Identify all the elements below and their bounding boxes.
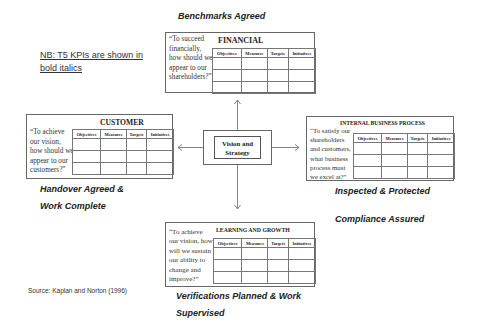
quote-line: we excel at?” [310, 172, 351, 181]
table-row [214, 272, 316, 284]
source-citation: Source: Kaplan and Norton (1996) [28, 287, 127, 294]
col-targets: Targets [407, 134, 427, 143]
quote-line: will we sustain [169, 247, 213, 256]
quote-line: shareholders [310, 135, 351, 144]
internal-process-perspective-box: INTERNAL BUSINESS PROCESS “To satisfy ou… [306, 116, 454, 181]
col-initiatives: Initiatives [288, 239, 315, 248]
col-measures: Measures [242, 239, 268, 248]
learning-growth-scorecard-table: Objectives Measures Targets Initiatives [213, 238, 316, 284]
quote-line: our vision, how [169, 237, 213, 246]
table-header-row: Objectives Measures Targets Initiatives [73, 130, 174, 139]
kpi-label: Supervised [176, 305, 301, 322]
kpi-label: Inspected & Protected [335, 183, 430, 200]
col-initiatives: Initiatives [147, 130, 174, 139]
learning-growth-perspective-box: “To achieve our vision, how will we sust… [165, 222, 315, 287]
quote-line: process must [310, 163, 351, 172]
col-measures: Measures [241, 49, 267, 58]
customer-kpi: Handover Agreed & Work Complete [40, 181, 124, 215]
table-row [213, 82, 316, 94]
kpi-label: Handover Agreed & [40, 181, 124, 198]
financial-perspective-box: “To succeed financially, how should we a… [165, 32, 315, 93]
table-header-row: Objectives Measures Targets Initiatives [354, 134, 455, 143]
vision-label-line-2: Strategy [222, 148, 253, 157]
col-targets: Targets [267, 49, 288, 58]
customer-title: CUSTOMER [100, 118, 144, 127]
kpi-label: Benchmarks Agreed [178, 8, 265, 25]
quote-line: how should we [169, 54, 213, 64]
quote-line: “To achieve [169, 228, 213, 237]
financial-kpi: Benchmarks Agreed [178, 8, 265, 25]
financial-title: FINANCIAL [218, 36, 263, 45]
table-row [354, 167, 455, 179]
col-targets: Targets [126, 130, 146, 139]
col-objectives: Objectives [213, 49, 242, 58]
internal-process-scorecard-table: Objectives Measures Targets Initiatives [353, 133, 455, 179]
table-header-row: Objectives Measures Targets Initiatives [213, 49, 316, 58]
learning-growth-question: “To achieve our vision, how will we sust… [169, 228, 213, 284]
note-line-1: NB: T5 KPIs are shown in [40, 49, 143, 62]
internal-process-question: “To satisfy our shareholders and custome… [310, 126, 351, 181]
learning-growth-title: LEARNING AND GROWTH [216, 227, 290, 233]
quote-line: financially, [169, 45, 213, 55]
table-row [354, 143, 455, 155]
table-row [73, 163, 174, 175]
table-header-row: Objectives Measures Targets Initiatives [214, 239, 316, 248]
quote-line: customers?” [30, 166, 74, 176]
customer-perspective-box: “To achieve our vision, how should we ap… [26, 114, 173, 179]
quote-line: improve?” [169, 275, 213, 284]
customer-scorecard-table: Objectives Measures Targets Initiatives [72, 129, 174, 175]
quote-line: how should we [30, 147, 74, 157]
col-objectives: Objectives [354, 134, 382, 143]
financial-question: “To succeed financially, how should we a… [169, 35, 213, 83]
kpi-label: Verifications Planned & Work [176, 288, 301, 305]
table-row [214, 248, 316, 260]
col-targets: Targets [268, 239, 289, 248]
quote-line: change and [169, 266, 213, 275]
note-line-2: bold italics [40, 62, 143, 75]
col-measures: Measures [101, 130, 127, 139]
kpi-legend-note: NB: T5 KPIs are shown in bold italics [40, 49, 143, 75]
col-measures: Measures [382, 134, 408, 143]
col-initiatives: Initiatives [428, 134, 455, 143]
col-objectives: Objectives [73, 130, 101, 139]
quote-line: appear to our [30, 157, 74, 167]
quote-line: “To succeed [169, 35, 213, 45]
quote-line: and customers, [310, 144, 351, 153]
internal-process-kpi-1: Inspected & Protected [335, 183, 430, 200]
quote-line: what business [310, 154, 351, 163]
quote-line: our ability to [169, 256, 213, 265]
table-row [213, 70, 316, 82]
col-initiatives: Initiatives [288, 49, 315, 58]
learning-growth-kpi: Verifications Planned & Work Supervised [176, 288, 301, 322]
internal-process-kpi-2: Compliance Assured [335, 211, 424, 228]
quote-line: “To satisfy our [310, 126, 351, 135]
quote-line: “To achieve [30, 128, 74, 138]
financial-scorecard-table: Objectives Measures Targets Initiatives [212, 48, 316, 94]
internal-process-title: INTERNAL BUSINESS PROCESS [340, 120, 425, 126]
vision-label-line-1: Vision and [222, 139, 253, 148]
customer-question: “To achieve our vision, how should we ap… [30, 128, 74, 176]
vision-strategy-box: Vision and Strategy [214, 136, 261, 159]
table-row [213, 58, 316, 70]
quote-line: our vision, [30, 138, 74, 148]
table-row [73, 151, 174, 163]
table-row [73, 139, 174, 151]
table-row [354, 155, 455, 167]
quote-line: shareholders?” [169, 73, 213, 83]
table-row [214, 260, 316, 272]
quote-line: appear to our [169, 64, 213, 74]
kpi-label: Compliance Assured [335, 211, 424, 228]
col-objectives: Objectives [214, 239, 242, 248]
kpi-label: Work Complete [40, 198, 124, 215]
